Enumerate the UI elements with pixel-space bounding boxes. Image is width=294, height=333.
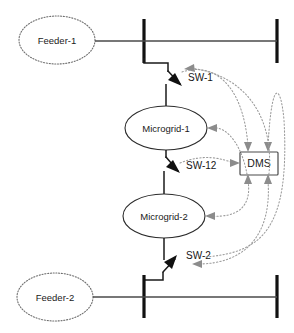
sw-12-label: SW-12 [186, 160, 217, 171]
sw-2-pointer-arrowhead [164, 255, 177, 269]
single-line-diagram: Feeder-1 SW-1 Microgrid-1 SW-12 [0, 0, 294, 333]
comm-link-dms-to-microgrid2 [205, 181, 249, 220]
comm-link-sw12-to-dms-arrowhead [230, 159, 240, 167]
comm-link-dms-to-microgrid1-arrowhead [207, 124, 217, 132]
dms-label: DMS [247, 157, 270, 169]
microgrid-1-node[interactable]: Microgrid-1 [125, 106, 207, 150]
comm-link-dms-to-microgrid2-arrowhead [205, 212, 215, 220]
sw-2-label: SW-2 [186, 250, 211, 261]
microgrid-2-node[interactable]: Microgrid-2 [123, 194, 205, 238]
feeder-1-label: Feeder-1 [38, 35, 77, 46]
comm-link-sw1-to-dms-arrowhead [244, 142, 252, 152]
sw-2-lower-lead [144, 272, 163, 286]
dms-node[interactable]: DMS [240, 152, 278, 175]
feeder-1-node[interactable]: Feeder-1 [19, 16, 95, 64]
sw-1-group[interactable]: SW-1 [144, 58, 213, 107]
diagram-canvas: Feeder-1 SW-1 Microgrid-1 SW-12 [0, 0, 294, 333]
feeder-2-label: Feeder-2 [36, 292, 75, 303]
sw-12-pointer-arrowhead [166, 160, 180, 173]
microgrid-2-label: Microgrid-2 [140, 211, 188, 222]
sw-1-pointer-arrowhead [168, 73, 182, 86]
feeder-2-node[interactable]: Feeder-2 [17, 273, 93, 321]
comm-link-dms-to-microgrid2-path [211, 181, 249, 216]
top-bus-group [144, 19, 277, 63]
comm-link-dms-to-sw2-arrowhead [192, 260, 202, 268]
bottom-bus-group [144, 275, 277, 318]
sw-12-group[interactable]: SW-12 [164, 150, 217, 194]
microgrid-1-label: Microgrid-1 [142, 123, 190, 134]
sw-1-label: SW-1 [188, 72, 213, 83]
sw-1-upper-lead [144, 58, 168, 72]
